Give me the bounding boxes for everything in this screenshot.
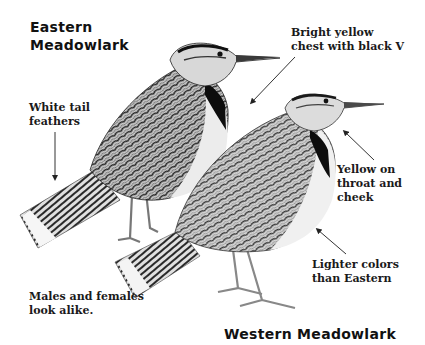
eastern-title-line-1: Eastern <box>30 18 129 36</box>
throat-line-1: Yellow on <box>337 163 402 177</box>
lighter-line-2: than Eastern <box>312 272 399 286</box>
tail-line-1: White tail <box>29 101 90 115</box>
chest-line-1: Bright yellow <box>291 26 404 40</box>
meadowlark-comparison-diagram: Eastern Meadowlark Western Meadowlark Br… <box>0 0 425 345</box>
arrow-chest <box>252 57 295 102</box>
sexes-line-1: Males and females <box>29 290 144 304</box>
arrow-throat <box>345 132 374 160</box>
annotation-tail: White tail feathers <box>29 101 90 129</box>
eastern-title-line-2: Meadowlark <box>30 36 129 54</box>
lighter-line-1: Lighter colors <box>312 258 399 272</box>
sexes-line-2: look alike. <box>29 304 144 318</box>
annotation-throat: Yellow on throat and cheek <box>337 163 402 205</box>
annotation-chest: Bright yellow chest with black V <box>291 26 404 54</box>
eastern-meadowlark-title: Eastern Meadowlark <box>30 18 129 54</box>
annotation-sexes: Males and females look alike. <box>29 290 144 318</box>
annotation-lighter: Lighter colors than Eastern <box>312 258 399 286</box>
western-meadowlark-title: Western Meadowlark <box>224 325 396 343</box>
throat-line-2: throat and <box>337 177 402 191</box>
tail-line-2: feathers <box>29 115 90 129</box>
throat-line-3: cheek <box>337 191 402 205</box>
chest-line-2: chest with black V <box>291 40 404 54</box>
arrow-lighter <box>318 230 346 254</box>
